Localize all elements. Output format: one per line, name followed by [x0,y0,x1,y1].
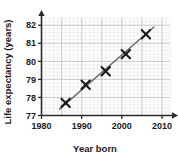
life-expectancy-scatter-chart: 777879808182 1980199020002010 Year born … [0,0,178,159]
x-tick-label: 2010 [152,121,172,131]
x-tick-label: 1990 [72,121,92,131]
x-tick-label: 2000 [112,121,132,131]
y-tick-label: 81 [26,38,36,48]
y-tick-label: 77 [26,111,36,121]
y-tick-label: 80 [26,57,36,67]
y-tick-label: 78 [26,93,36,103]
x-axis-title: Year born [73,143,117,154]
x-tick-label: 1980 [31,121,51,131]
y-tick-label: 79 [26,75,36,85]
y-axis-title: Life expectancy (years) [2,19,13,124]
y-tick-label: 82 [26,20,36,30]
chart-container: 777879808182 1980199020002010 Year born … [0,0,178,159]
